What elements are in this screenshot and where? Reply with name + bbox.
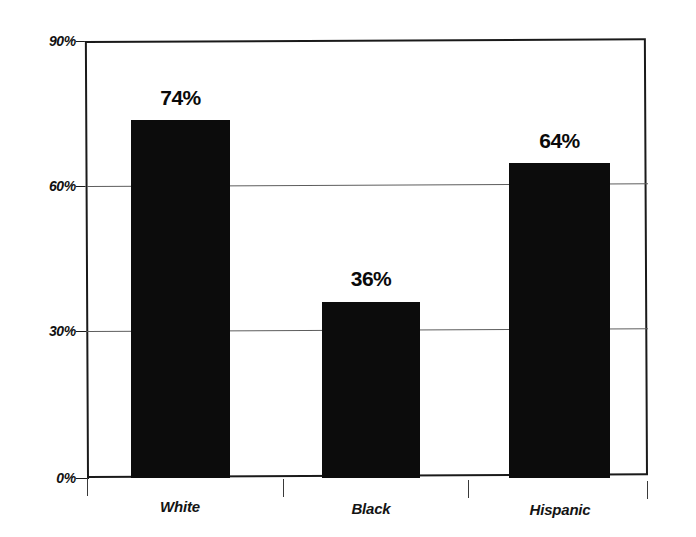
x-axis-tick-mark-1 [87,478,88,496]
x-axis-tick-mark-2 [283,479,284,497]
bar-hispanic [509,163,610,478]
bar-black [322,302,420,478]
chart-page: 90% 60% 30% 0% 74% 36% 64% White Black H… [0,0,696,537]
bar-value-label-hispanic: 64% [509,129,610,153]
x-axis-category-label-hispanic: Hispanic [500,501,620,518]
bar-white [131,120,230,478]
y-axis-tick-label-0: 0% [14,470,76,486]
bar-value-label-black: 36% [322,267,420,291]
bar-value-label-white: 74% [131,86,230,110]
y-axis-tick-label-90: 90% [14,33,76,49]
x-axis-category-label-black: Black [312,500,430,517]
x-axis-tick-mark-4 [647,481,648,499]
y-axis-tick-label-30: 30% [14,323,76,339]
x-axis-category-label-white: White [120,498,240,515]
x-axis-tick-mark-3 [468,480,469,498]
y-axis-tick-label-60: 60% [14,178,76,194]
